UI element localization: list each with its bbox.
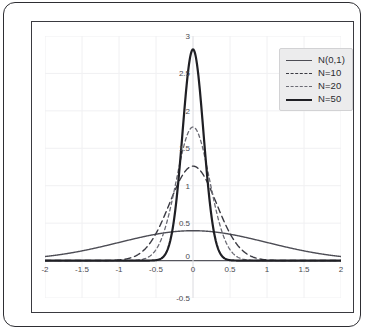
y-axis-tick-label: 1 — [175, 181, 190, 190]
legend-item[interactable]: N=10 — [286, 66, 345, 79]
x-axis-tick-label: -1.5 — [75, 265, 89, 274]
y-axis-tick-label: 2 — [175, 106, 190, 115]
legend-line-swatch — [286, 55, 312, 65]
x-axis-tick-label: -1 — [115, 265, 122, 274]
legend-item[interactable]: N(0,1) — [286, 53, 345, 66]
x-axis-tick-label: -2 — [41, 265, 48, 274]
y-axis-tick-label: 2.5 — [175, 69, 190, 78]
x-axis-tick-label: 1.5 — [298, 265, 309, 274]
legend-item-label: N=20 — [318, 81, 341, 91]
x-axis-tick-label: 2 — [339, 265, 343, 274]
legend-swatch-line — [286, 99, 312, 101]
y-axis-tick-label: 0.5 — [175, 219, 190, 228]
x-axis-tick-label: 0 — [191, 265, 195, 274]
y-axis-tick-label: 0 — [175, 251, 190, 260]
legend-swatch-line — [286, 73, 312, 74]
legend-line-swatch — [286, 68, 312, 78]
y-axis-tick-label: 3 — [175, 32, 190, 41]
legend-item-label: N=10 — [318, 68, 341, 78]
chart-legend: N(0,1) N=10 N=20 N=50 — [279, 48, 353, 111]
x-axis-tick-label: -0.5 — [149, 265, 163, 274]
legend-item[interactable]: N=20 — [286, 79, 345, 92]
figure-frame: -2-1.5-1-0.500.511.52-0.50.511.522.530 N… — [31, 21, 354, 313]
legend-swatch-line — [286, 60, 312, 61]
plot-area: -2-1.5-1-0.500.511.52-0.50.511.522.530 N… — [45, 36, 341, 298]
legend-swatch-line — [286, 86, 312, 87]
outer-card: -2-1.5-1-0.500.511.52-0.50.511.522.530 N… — [3, 2, 361, 327]
legend-item-label: N=50 — [318, 94, 341, 104]
y-axis-tick-label: -0.5 — [175, 294, 190, 303]
legend-line-swatch — [286, 81, 312, 91]
y-axis-tick-label: 1.5 — [175, 144, 190, 153]
x-axis-tick-label: 1 — [265, 265, 269, 274]
legend-item-label: N(0,1) — [318, 55, 345, 65]
x-axis-tick-label: 0.5 — [224, 265, 235, 274]
legend-line-swatch — [286, 94, 312, 104]
legend-item[interactable]: N=50 — [286, 92, 345, 105]
